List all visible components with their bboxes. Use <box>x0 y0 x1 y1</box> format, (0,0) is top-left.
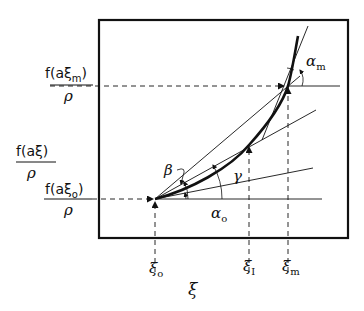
svg-text:f(aξ): f(aξ) <box>16 143 48 159</box>
arc-alpha-o <box>185 193 186 199</box>
svg-text:ρ: ρ <box>26 164 36 182</box>
function-curve <box>155 36 298 199</box>
x-axis-label: ξ <box>188 279 199 299</box>
ray-chord-xim <box>155 76 300 199</box>
y-label-fxi0: f(aξo) ρ <box>44 181 92 219</box>
curve-tangent-diagram: f(aξm) ρ f(aξ) ρ f(aξo) ρ ξo ξI ξm ξ αm … <box>0 0 364 311</box>
svg-text:ρ: ρ <box>63 87 73 105</box>
svg-text:f(aξo): f(aξo) <box>45 181 83 200</box>
angle-label-alpha-m: αm <box>306 52 326 72</box>
x-label-xi1: ξI <box>243 257 255 277</box>
arc-alpha-m <box>300 70 303 86</box>
y-label-fxim: f(aξm) ρ <box>45 65 93 105</box>
angle-label-beta: β <box>163 161 173 179</box>
svg-text:f(aξm): f(aξm) <box>45 65 87 84</box>
arc-beta-hook <box>177 169 184 184</box>
angle-label-gamma: γ <box>233 167 242 185</box>
x-label-xim: ξm <box>282 257 300 277</box>
angle-label-alpha-o: αo <box>211 204 227 224</box>
x-label-xi0: ξo <box>149 259 163 279</box>
ray-chord-xi1 <box>155 110 316 199</box>
y-label-fxi: f(aξ) ρ <box>16 143 56 182</box>
svg-text:ρ: ρ <box>63 201 73 219</box>
